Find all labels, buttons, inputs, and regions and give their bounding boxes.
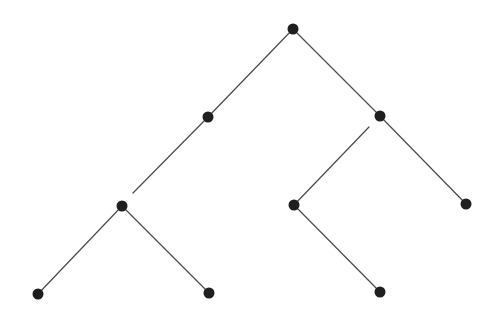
tree-diagram [0, 0, 498, 318]
edge-RL-RLR [294, 205, 380, 292]
node-root [288, 24, 299, 35]
node-RLR [375, 287, 386, 298]
edge-root-R [293, 29, 380, 116]
edge-R-RL [294, 127, 369, 205]
tree-nodes [33, 24, 472, 300]
edge-root-L [208, 29, 293, 117]
node-LLR [204, 288, 215, 299]
edge-LL-LLR [122, 206, 209, 293]
node-RL [289, 200, 300, 211]
edge-L-LL [133, 117, 208, 193]
edge-R-RR [380, 116, 466, 204]
node-L [203, 112, 214, 123]
tree-edges [38, 29, 466, 294]
node-RR [461, 199, 472, 210]
node-R [375, 111, 386, 122]
node-LLL [33, 289, 44, 300]
edge-LL-LLL [38, 206, 122, 294]
node-LL [117, 201, 128, 212]
